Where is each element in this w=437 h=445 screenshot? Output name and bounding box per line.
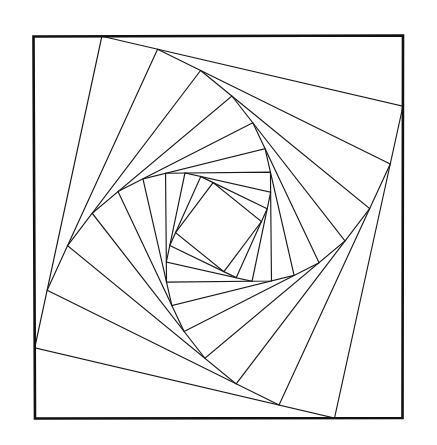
canvas-background [0, 0, 437, 445]
square-spiral-figure [0, 0, 437, 445]
